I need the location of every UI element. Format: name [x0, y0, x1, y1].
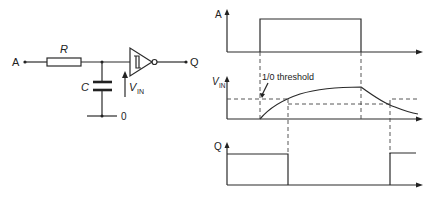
resistor-r: [47, 58, 81, 66]
q-high-segment-2: [390, 153, 416, 185]
output-label-q: Q: [190, 56, 199, 68]
resistor-label: R: [60, 43, 68, 55]
waveform-vin: V IN 1/0 threshold: [212, 72, 423, 122]
waveform-vin-subscript: IN: [219, 82, 226, 89]
ground-node: [101, 115, 104, 118]
output-node: [184, 60, 187, 63]
arrow-right-icon: [416, 183, 423, 188]
annotation-pointer: [262, 83, 268, 95]
vin-curve: [260, 87, 418, 119]
circuit-schematic: A R C 0 V IN Q: [12, 43, 199, 122]
arrow-up-icon: [225, 76, 230, 82]
arrow-up-icon: [225, 142, 230, 148]
arrow-right-icon: [416, 50, 423, 55]
waveform-a: A: [215, 9, 423, 55]
waveform-q: Q: [214, 141, 423, 188]
inverter-gate: [130, 48, 152, 76]
input-label-a: A: [12, 56, 20, 68]
upper-threshold-line-2: [390, 99, 418, 104]
vin-subscript: IN: [137, 88, 144, 95]
waveform-q-label: Q: [214, 141, 222, 152]
capacitor-label: C: [81, 81, 89, 93]
a-pulse: [260, 19, 361, 52]
arrow-up-icon: [122, 71, 128, 78]
arrow-up-icon: [225, 9, 230, 15]
hysteresis-icon: [134, 56, 141, 68]
schmitt-trigger-diagram: A R C 0 V IN Q A V: [0, 0, 432, 200]
arrow-right-icon: [416, 117, 423, 122]
ground-label: 0: [121, 111, 127, 122]
threshold-annotation: 1/0 threshold: [262, 72, 314, 82]
waveform-a-label: A: [215, 9, 222, 20]
q-high-segment-1: [227, 154, 288, 185]
